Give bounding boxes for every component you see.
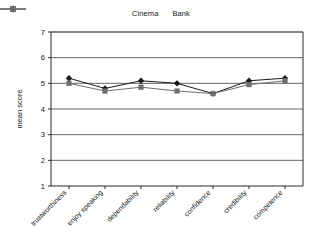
square-marker	[174, 88, 179, 93]
x-category-label: trustworthiness	[29, 188, 68, 227]
x-category-label: enjoy speaking	[66, 189, 105, 228]
y-axis-title: mean score	[15, 89, 24, 128]
chart-plot: 1234567 mean score trustworthinessenjoy …	[0, 0, 322, 239]
y-tick-label: 2	[41, 156, 45, 165]
square-marker	[282, 78, 287, 83]
y-tick-label: 7	[41, 28, 45, 37]
y-tick-label: 6	[41, 53, 45, 62]
y-axis-title-text: mean score	[15, 89, 24, 128]
x-axis-category-labels: trustworthinessenjoy speakingdependabili…	[29, 188, 284, 227]
y-tick-label: 5	[41, 79, 45, 88]
square-marker	[102, 88, 107, 93]
chart-container: Cinema Bank 1234567 mean score trustwort…	[0, 0, 322, 239]
x-category-label: competence	[252, 189, 285, 222]
chart-series-markers	[66, 75, 288, 97]
diamond-marker	[174, 80, 180, 86]
square-marker	[66, 81, 71, 86]
y-tick-label: 4	[41, 105, 45, 114]
y-tick-label: 3	[41, 130, 45, 139]
square-marker	[210, 91, 215, 96]
x-category-label: dependability	[106, 188, 141, 223]
y-tick-label: 1	[41, 182, 45, 191]
square-marker	[138, 85, 143, 90]
x-category-label: confidence	[183, 189, 212, 218]
y-axis-tick-labels: 1234567	[41, 28, 45, 191]
x-category-label: reliability	[151, 188, 176, 213]
diamond-marker	[66, 75, 72, 81]
chart-gridlines	[51, 32, 303, 160]
x-category-label: credibility	[222, 188, 249, 215]
square-marker	[246, 82, 251, 87]
